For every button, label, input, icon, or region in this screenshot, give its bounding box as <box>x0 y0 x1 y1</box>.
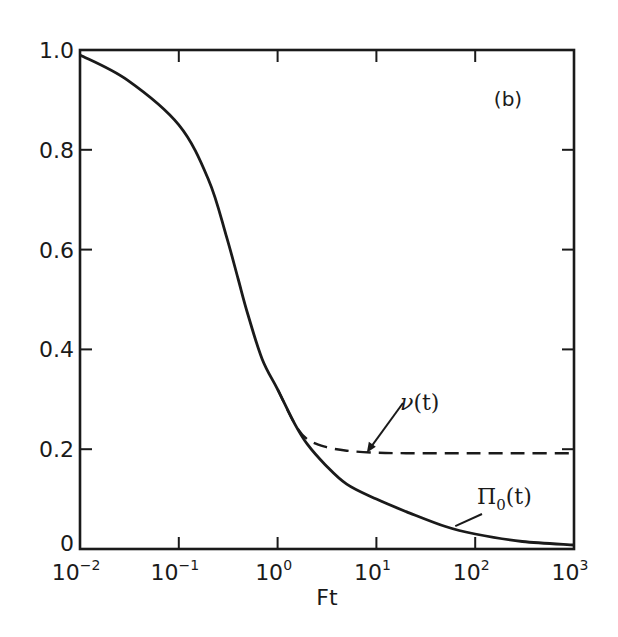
y-tick-label: 0.8 <box>39 138 74 163</box>
axes-box <box>80 50 574 549</box>
x-tick-label: 102 <box>453 557 490 585</box>
x-tick-label: 103 <box>552 557 589 585</box>
y-tick-label: 0.6 <box>39 238 74 263</box>
pi0-curve <box>80 55 574 545</box>
y-tick-label: 0.2 <box>39 437 74 462</box>
plot-frame <box>80 50 574 549</box>
y-tick-label: 1.0 <box>39 38 74 63</box>
y-tick-label: 0.4 <box>39 337 74 362</box>
chart: 10−210−1100101102103 00.20.40.60.81.0 ν(… <box>0 0 618 637</box>
pi0-label: Π0(t) <box>477 484 532 514</box>
x-tick-label: 10−2 <box>52 557 101 585</box>
x-axis-title: Ft <box>316 585 338 610</box>
nu-label: ν(t) <box>400 390 439 415</box>
series-group <box>80 55 574 545</box>
nu-arrow <box>370 403 403 449</box>
pi0-arrow <box>455 514 482 526</box>
x-tick-label: 101 <box>354 557 391 585</box>
y-tick-label: 0 <box>60 531 74 556</box>
y-axis-ticks: 00.20.40.60.81.0 <box>39 38 574 556</box>
panel-label: (b) <box>494 87 522 111</box>
x-tick-label: 10−1 <box>150 557 199 585</box>
x-tick-label: 100 <box>255 557 292 585</box>
